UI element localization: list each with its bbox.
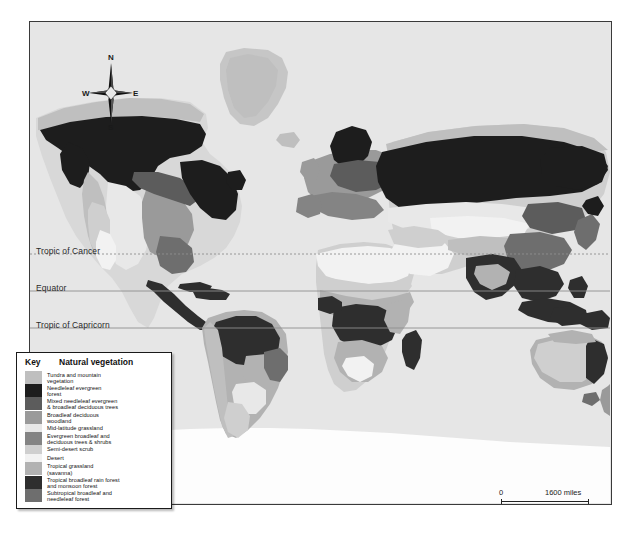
legend-swatch [25,476,42,489]
legend-main-title: Natural vegetation [59,357,133,367]
legend-item-label: Subtropical broadleaf andneedleleaf fore… [42,489,112,502]
legend-label-line: Semi-desert scrub [47,446,93,452]
legend-item-label: Needleleaf evergreenforest [42,384,102,397]
legend-label-line: Tropical broadleaf rain forest [47,477,120,483]
legend-item: Tropical grassland(savanna) [25,462,169,475]
legend-label-line: Mid-latitude grassland [47,425,103,431]
tropic-of-capricorn-label: Tropic of Capricorn [36,320,110,330]
compass-north-label: N [108,53,114,62]
scale-tick-end [588,499,589,504]
legend-swatch [25,371,42,384]
legend-items: Tundra and mountainvegetationNeedleleaf … [25,371,169,502]
compass-south-label: S [108,123,113,132]
legend-label-line: needleleaf forest [47,496,112,502]
legend-swatch [25,411,42,424]
equator-label: Equator [36,283,66,293]
legend-item: Evergreen broadleaf anddeciduous trees &… [25,432,169,445]
legend-swatch [25,424,42,433]
legend-item: Semi-desert scrub [25,445,169,454]
legend-label-line: Tropical grassland [47,463,93,469]
legend-swatch [25,462,42,475]
scale-bar-line [501,501,589,502]
legend-key-title: Key [25,357,41,367]
map-legend: Key Natural vegetation Tundra and mounta… [16,352,172,509]
legend-header: Key Natural vegetation [17,353,171,370]
legend-label-line: Subtropical broadleaf and [47,490,112,496]
legend-item: Tropical broadleaf rain forestand monsoo… [25,476,169,489]
legend-label-line: Desert [47,455,64,461]
legend-item-label: Tropical broadleaf rain forestand monsoo… [42,476,120,489]
legend-item: Mid-latitude grassland [25,424,169,433]
legend-item-label: Desert [42,454,64,461]
scale-tick-start [501,499,502,504]
legend-item: Subtropical broadleaf andneedleleaf fore… [25,489,169,502]
legend-swatch [25,454,42,463]
legend-item-label: Mid-latitude grassland [42,424,103,431]
scale-bar: 0 1600 miles 0 2600 km [499,488,612,505]
tropic-of-cancer-label: Tropic of Cancer [36,246,100,256]
legend-item-label: Mixed needleleaf evergreen& broadleaf de… [42,397,118,410]
compass-east-label: E [133,89,138,98]
legend-item-label: Broadleaf deciduouswoodland [42,411,99,424]
legend-swatch [25,397,42,410]
legend-item: Needleleaf evergreenforest [25,384,169,397]
compass-rose: N E S W [82,53,140,133]
legend-item-label: Tundra and mountainvegetation [42,371,101,384]
compass-west-label: W [82,89,90,98]
scale-zero-miles: 0 [499,488,503,497]
legend-swatch [25,489,42,502]
legend-item: Desert [25,454,169,463]
legend-swatch [25,445,42,454]
legend-item-label: Evergreen broadleaf anddeciduous trees &… [42,432,111,445]
legend-item: Mixed needleleaf evergreen& broadleaf de… [25,397,169,410]
legend-item-label: Tropical grassland(savanna) [42,462,93,475]
legend-item: Broadleaf deciduouswoodland [25,411,169,424]
scale-miles-label: 1600 miles [545,488,581,497]
legend-swatch [25,384,42,397]
legend-item-label: Semi-desert scrub [42,445,93,452]
compass-icon [82,53,140,133]
legend-label-line: Broadleaf deciduous [47,412,99,418]
legend-item: Tundra and mountainvegetation [25,371,169,384]
legend-swatch [25,432,42,445]
